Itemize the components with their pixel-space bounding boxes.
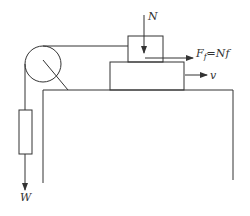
hanging-weight [19, 110, 32, 154]
lower-block [110, 62, 184, 90]
pulley [25, 46, 61, 82]
pulley-bracket [43, 60, 68, 90]
friction-diagram: N Ff=Nf v W [0, 0, 250, 216]
weight-label: W [20, 191, 33, 204]
table [43, 90, 233, 183]
diagram-canvas: N Ff=Nf v W [0, 0, 250, 216]
velocity-label: v [210, 69, 217, 82]
normal-force-label: N [147, 10, 158, 23]
friction-force-label: Ff=Nf [195, 47, 231, 61]
